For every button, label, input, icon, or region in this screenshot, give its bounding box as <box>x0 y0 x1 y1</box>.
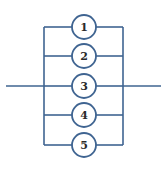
component-label-3: 3 <box>80 80 88 93</box>
component-label-4: 4 <box>80 109 88 122</box>
parallel-network-diagram: 12345 <box>0 0 167 174</box>
component-label-2: 2 <box>80 50 88 63</box>
component-label-5: 5 <box>80 139 88 152</box>
component-label-1: 1 <box>80 21 88 34</box>
